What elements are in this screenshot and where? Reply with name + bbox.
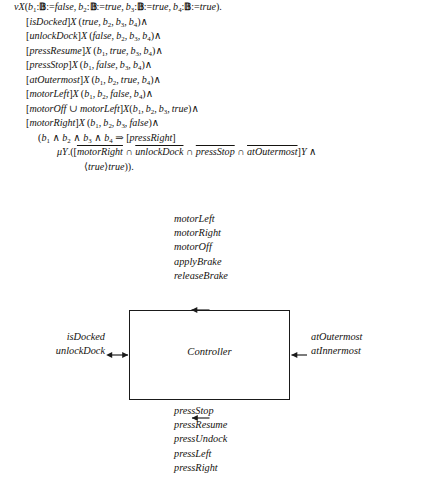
formula-line-diamond-true: ⟨true⟩true)). [0,160,429,175]
mu-calculus-formula: νX(b1:𝔹:=false, b2:𝔹:=true, b3:𝔹:=true, … [0,0,429,175]
formula-line-motorright: [motorRight]X (b1, b2, b3, false)∧ [0,116,429,131]
formula-line-pressresume: [pressResume]X (b1, true, b3, b4)∧ [0,44,429,59]
formula-line-atoutermost: [atOutermost]X (b1, b2, true, b4)∧ [0,73,429,88]
formula-line-unlockdock: [unlockDock]X (false, b2, b3, b4)∧ [0,29,429,44]
formula-line-motoroff-union-motorleft: [motorOff ∪ motorLeft]X(b1, b2, b3, true… [0,102,429,117]
controller-block-diagram: motorLeft motorRight motorOff applyBrake… [0,208,429,498]
formula-line-isdocked: [isDocked]X (true, b2, b3, b4)∧ [0,15,429,30]
formula-line-implication: (b1 ∧ b2 ∧ b3 ∧ b4 ⇒ [pressRight] [0,131,429,146]
diagram-arrows [0,208,429,498]
formula-line-pressstop: [pressStop]X (b1, false, b3, b4)∧ [0,58,429,73]
formula-line-motorleft: [motorLeft]X (b1, b2, false, b4)∧ [0,87,429,102]
formula-line-nu-binder: νX(b1:𝔹:=false, b2:𝔹:=true, b3:𝔹:=true, … [0,0,429,15]
formula-line-mu-binder: μY.([motorRight ∩ unlockDock ∩ pressStop… [0,145,429,160]
